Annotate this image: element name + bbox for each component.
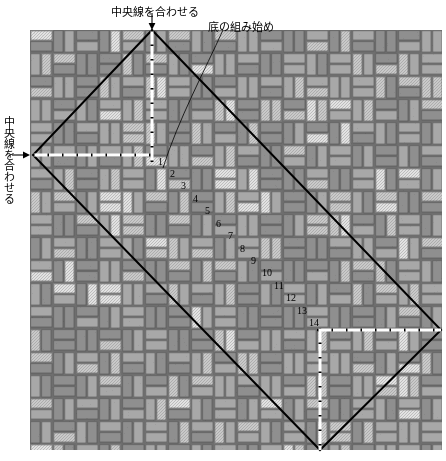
step-number-10: 10 [262, 268, 272, 278]
step-number-7: 7 [228, 231, 233, 241]
label-center-line-top: 中央線を合わせる [111, 3, 199, 19]
step-number-4: 4 [193, 194, 198, 204]
step-number-14: 14 [309, 318, 319, 328]
basket-weave-canvas [30, 30, 442, 450]
label-center-line-left: 中央線を合わせる [2, 116, 14, 204]
step-number-3: 3 [181, 181, 186, 191]
label-bottom-weave-start: 底の組み始め [208, 18, 274, 34]
diagram-root: 中央線を合わせる 底の組み始め 中央線を合わせる 123456789101112… [0, 0, 446, 461]
step-number-13: 13 [297, 306, 307, 316]
step-number-12: 12 [286, 293, 296, 303]
step-number-8: 8 [240, 244, 245, 254]
step-number-5: 5 [205, 206, 210, 216]
step-number-6: 6 [216, 219, 221, 229]
step-number-9: 9 [251, 256, 256, 266]
step-number-2: 2 [170, 169, 175, 179]
weave-pattern-area [30, 30, 442, 450]
step-number-1: 1 [158, 157, 163, 167]
step-number-11: 11 [274, 281, 284, 291]
